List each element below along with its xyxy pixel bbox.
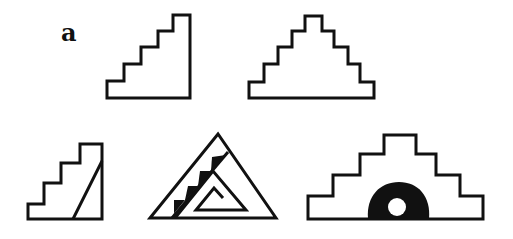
motif-triangle-with-spiral — [150, 134, 276, 218]
figure-canvas — [0, 0, 513, 239]
motif-stepped-pyramid — [249, 16, 374, 98]
motif-ascending-staircase — [107, 15, 190, 98]
dome-with-hole — [368, 182, 429, 219]
motif-staircase-with-diagonal — [28, 144, 102, 219]
